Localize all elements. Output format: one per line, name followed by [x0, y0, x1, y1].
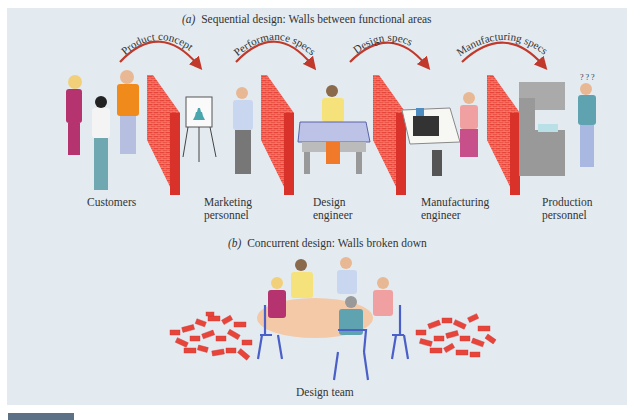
brick-wall-4 — [487, 75, 520, 195]
design-engineer-figure — [298, 85, 370, 174]
brick-wall-2 — [261, 75, 294, 195]
role-label-design-engineer: Design engineer — [313, 196, 353, 222]
design-team-illustration — [257, 257, 408, 380]
role-label-customers: Customers — [87, 196, 136, 209]
brick-wall-3 — [373, 75, 406, 195]
svg-text:Design specs: Design specs — [351, 31, 415, 56]
svg-text:Manufacturing specs: Manufacturing specs — [454, 30, 550, 58]
design-team-label: Design team — [296, 386, 354, 399]
customers-figures — [66, 70, 139, 190]
production-figure: ? ? ? — [519, 73, 596, 176]
confused-marks: ? ? ? — [580, 73, 595, 82]
brick-wall-1 — [147, 75, 180, 195]
brick-pile-left — [170, 312, 252, 360]
part-b-title: (b) Concurrent design: Walls broken down — [228, 237, 427, 249]
role-label-marketing: Marketing personnel — [204, 196, 252, 222]
footer-tab — [8, 413, 74, 420]
part-b-letter: (b) — [228, 237, 241, 249]
brick-pile-right — [416, 314, 496, 357]
marketing-figure — [183, 87, 253, 174]
manufacturing-engineer-figure — [402, 92, 478, 176]
role-label-production: Production personnel — [542, 196, 592, 222]
role-label-manufacturing-engineer: Manufacturing engineer — [421, 196, 489, 222]
